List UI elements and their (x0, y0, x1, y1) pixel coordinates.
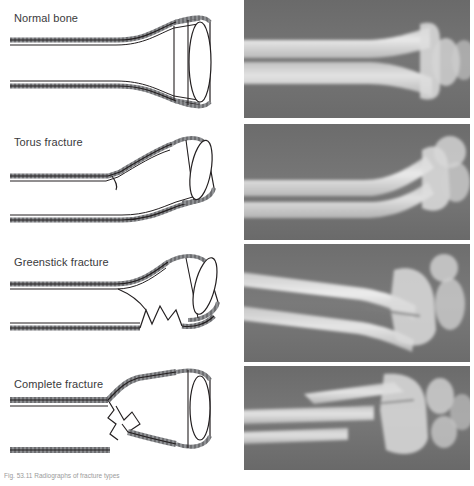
bone-diagram-greenstick (0, 244, 236, 362)
xray-panel-torus-fracture (244, 124, 470, 240)
radiograph-greenstick-fracture (244, 244, 470, 362)
radiograph-normal-bone (244, 0, 470, 118)
diagram-panel-torus-fracture: Torus fracture (0, 124, 236, 240)
figure-row: Torus fracture (0, 124, 474, 240)
bone-diagram-complete (0, 366, 236, 470)
diagram-panel-complete-fracture: Complete fracture (0, 366, 236, 470)
radiograph-complete-fracture (244, 366, 470, 470)
xray-panel-complete-fracture (244, 366, 470, 470)
xray-panel-normal-bone (244, 0, 470, 118)
fracture-types-figure: Normal bone (0, 0, 474, 486)
bone-diagram-torus (0, 124, 236, 240)
diagram-panel-normal-bone: Normal bone (0, 0, 236, 118)
figure-row: Complete fracture (0, 366, 474, 470)
radiograph-torus-fracture (244, 124, 470, 240)
bone-diagram-normal (0, 0, 236, 118)
diagram-panel-greenstick-fracture: Greenstick fracture (0, 244, 236, 362)
xray-panel-greenstick-fracture (244, 244, 470, 362)
figure-caption: Fig. 53.11 Radiographs of fracture types (4, 472, 304, 480)
figure-row: Greenstick fracture (0, 244, 474, 362)
figure-row: Normal bone (0, 0, 474, 118)
